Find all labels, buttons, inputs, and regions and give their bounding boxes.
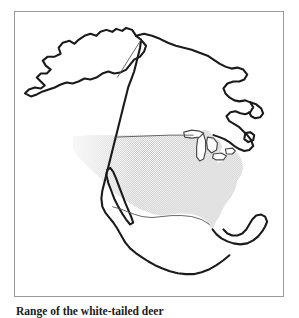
- map-frame: [14, 11, 284, 297]
- lake-ontario: [225, 148, 235, 154]
- range-map-figure: Range of the white-tailed deer: [0, 0, 299, 318]
- lake-superior: [184, 130, 204, 138]
- range-overlay: [15, 12, 283, 296]
- north-america-map: [15, 12, 283, 296]
- figure-caption: Range of the white-tailed deer: [16, 305, 284, 318]
- lake-erie: [213, 153, 227, 160]
- mexico-gulf-outline: [213, 215, 268, 245]
